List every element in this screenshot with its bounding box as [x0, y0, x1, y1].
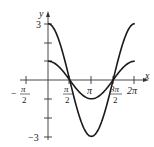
y-tick-label-3: 3 [36, 19, 41, 30]
x-tick-den-three-half-pi: 2 [113, 95, 118, 105]
y-axis-arrow-icon [46, 11, 50, 17]
chart: y x 3 −3 − π 2 π 2 π 3π 2 2π [0, 0, 154, 147]
y-axis-label: y [38, 8, 44, 19]
x-tick-num-half-pi: π [64, 84, 69, 94]
y-tick-label-neg3: −3 [28, 132, 39, 143]
x-tick-num-three-half-pi: 3π [109, 84, 120, 94]
x-tick-label-pi: π [87, 85, 93, 96]
x-axis-label: x [144, 70, 150, 81]
x-tick-label-two-pi: 2π [127, 85, 138, 96]
x-tick-num-neg-half-pi: π [21, 84, 26, 94]
x-tick-den-neg-half-pi: 2 [22, 95, 27, 105]
x-tick-den-half-pi: 2 [65, 95, 70, 105]
x-tick-sign-neg-half-pi: − [11, 88, 17, 99]
